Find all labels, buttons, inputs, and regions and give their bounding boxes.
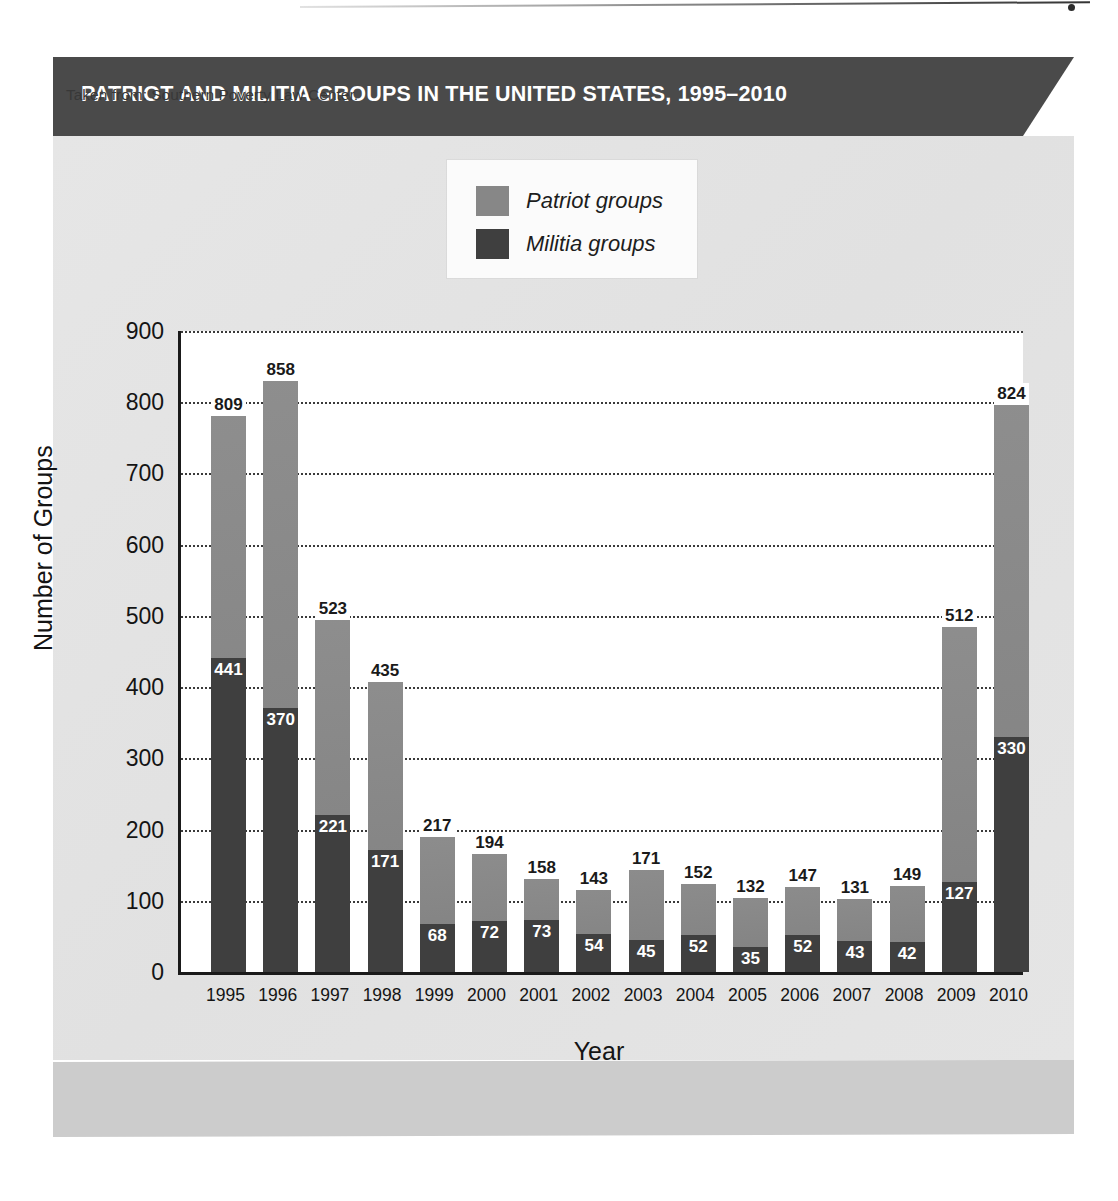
bar-value-label-patriot-2007: 131: [837, 877, 872, 899]
bar-group-1995[interactable]: 809441: [211, 331, 246, 972]
y-tick-label: 300: [98, 745, 164, 772]
y-tick-label: 0: [98, 959, 164, 986]
scan-artifact-dot: [1068, 4, 1075, 11]
bar-value-label-patriot-2004: 152: [681, 862, 716, 884]
y-tick-label: 500: [98, 602, 164, 629]
x-tick-label-1998: 1998: [356, 985, 408, 1006]
bar-value-label-militia-2004: 52: [681, 936, 716, 958]
x-tick-label-2005: 2005: [722, 985, 774, 1006]
y-axis-title: Number of Groups: [29, 445, 58, 651]
x-tick-label-2008: 2008: [878, 985, 930, 1006]
bar-group-2007[interactable]: 13143: [837, 331, 872, 972]
plot-area: 8094418583705232214351712176819472158731…: [178, 331, 1023, 975]
bar-group-1997[interactable]: 523221: [315, 331, 350, 972]
bar-value-label-militia-2006: 52: [785, 936, 820, 958]
bar-value-label-patriot-2003: 171: [629, 848, 664, 870]
bar-segment-militia-1996[interactable]: [263, 708, 298, 972]
bar-value-label-militia-1999: 68: [420, 925, 455, 947]
y-tick-label: 700: [98, 460, 164, 487]
bar-group-2006[interactable]: 14752: [785, 331, 820, 972]
y-tick-label: 800: [98, 389, 164, 416]
bar-value-label-patriot-2010: 824: [994, 383, 1029, 405]
bar-value-label-patriot-2008: 149: [890, 864, 925, 886]
legend-swatch-patriot: [476, 186, 509, 216]
x-tick-label-2000: 2000: [461, 985, 513, 1006]
x-tick-label-2002: 2002: [565, 985, 617, 1006]
legend-swatch-militia: [476, 229, 509, 259]
bar-value-label-militia-2001: 73: [524, 921, 559, 943]
bar-group-2001[interactable]: 15873: [524, 331, 559, 972]
bar-value-label-patriot-1996: 858: [263, 359, 298, 381]
bar-value-label-militia-2010: 330: [994, 738, 1029, 760]
bar-value-label-patriot-2005: 132: [733, 876, 768, 898]
bar-segment-militia-2010[interactable]: [994, 737, 1029, 972]
x-tick-label-2006: 2006: [774, 985, 826, 1006]
bar-group-1998[interactable]: 435171: [368, 331, 403, 972]
x-tick-label-1999: 1999: [408, 985, 460, 1006]
x-tick-label-2003: 2003: [617, 985, 669, 1006]
bar-value-label-patriot-2001: 158: [524, 857, 559, 879]
bar-value-label-militia-2005: 35: [733, 948, 768, 970]
x-tick-label-1997: 1997: [304, 985, 356, 1006]
bar-value-label-militia-2007: 43: [837, 942, 872, 964]
chart-legend: Patriot groups Militia groups: [447, 160, 697, 278]
bar-group-2009[interactable]: 512127: [942, 331, 977, 972]
x-tick-label-2001: 2001: [513, 985, 565, 1006]
y-tick-label: 200: [98, 816, 164, 843]
legend-label-militia: Militia groups: [526, 231, 656, 257]
bar-group-2008[interactable]: 14942: [890, 331, 925, 972]
bar-value-label-patriot-2009: 512: [942, 605, 977, 627]
x-tick-label-1995: 1995: [200, 985, 252, 1006]
source-note: Taken from: Southern Poverty Law Center.: [66, 86, 358, 104]
footer-band: [53, 1060, 1074, 1137]
bar-value-label-militia-2000: 72: [472, 922, 507, 944]
bar-value-label-militia-1995: 441: [211, 659, 246, 681]
bar-value-label-militia-1998: 171: [368, 851, 403, 873]
bar-group-2010[interactable]: 824330: [994, 331, 1029, 972]
bar-group-2005[interactable]: 13235: [733, 331, 768, 972]
bar-group-2004[interactable]: 15252: [681, 331, 716, 972]
x-tick-label-2007: 2007: [826, 985, 878, 1006]
y-tick-label: 100: [98, 887, 164, 914]
x-tick-label-2010: 2010: [983, 985, 1035, 1006]
bar-group-2003[interactable]: 17145: [629, 331, 664, 972]
bar-segment-militia-1995[interactable]: [211, 658, 246, 972]
x-tick-label-1996: 1996: [252, 985, 304, 1006]
bar-value-label-militia-2003: 45: [629, 941, 664, 963]
legend-item-patriot: Patriot groups: [476, 186, 663, 216]
legend-label-patriot: Patriot groups: [526, 188, 663, 214]
bar-value-label-patriot-2002: 143: [576, 868, 611, 890]
bar-group-1996[interactable]: 858370: [263, 331, 298, 972]
bar-value-label-militia-2002: 54: [576, 935, 611, 957]
x-tick-label-2004: 2004: [669, 985, 721, 1006]
y-tick-label: 900: [98, 318, 164, 345]
bar-value-label-patriot-1995: 809: [211, 394, 246, 416]
bar-segment-militia-1997[interactable]: [315, 815, 350, 972]
scan-artifact-line: [300, 1, 1090, 8]
x-tick-label-2009: 2009: [930, 985, 982, 1006]
bar-value-label-patriot-1998: 435: [368, 660, 403, 682]
bar-value-label-militia-1996: 370: [263, 709, 298, 731]
bar-group-2000[interactable]: 19472: [472, 331, 507, 972]
bar-value-label-militia-1997: 221: [315, 816, 350, 838]
y-tick-label: 400: [98, 674, 164, 701]
bar-value-label-patriot-1999: 217: [420, 815, 455, 837]
chart-figure: PATRIOT AND MILITIA GROUPS IN THE UNITED…: [53, 57, 1074, 1137]
bar-value-label-patriot-2006: 147: [785, 865, 820, 887]
y-tick-label: 600: [98, 531, 164, 558]
legend-item-militia: Militia groups: [476, 229, 656, 259]
bar-group-2002[interactable]: 14354: [576, 331, 611, 972]
bar-group-1999[interactable]: 21768: [420, 331, 455, 972]
bar-value-label-militia-2009: 127: [942, 883, 977, 905]
bar-value-label-patriot-1997: 523: [315, 598, 350, 620]
bar-value-label-militia-2008: 42: [890, 943, 925, 965]
bar-value-label-patriot-2000: 194: [472, 832, 507, 854]
